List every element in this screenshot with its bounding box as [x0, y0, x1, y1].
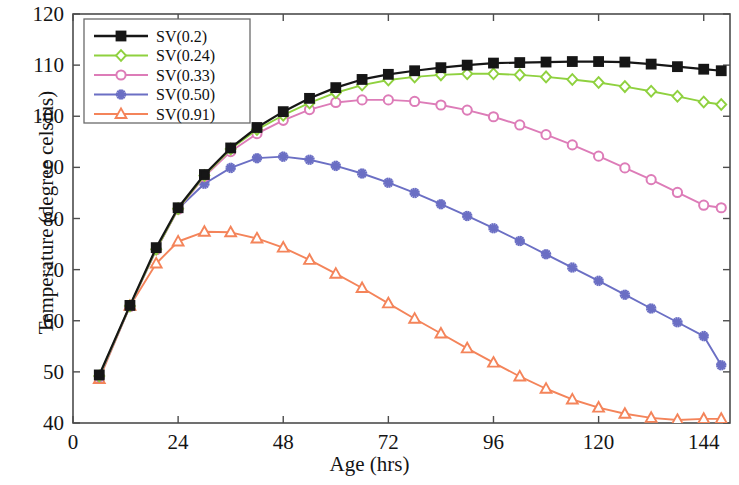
data-point-marker	[621, 58, 629, 66]
data-point-marker	[174, 204, 182, 212]
data-point-marker	[384, 95, 393, 104]
data-point-marker	[567, 263, 577, 273]
data-point-marker	[673, 188, 682, 197]
data-point-marker	[646, 303, 656, 313]
y-tick-label: 120	[0, 2, 64, 27]
data-point-marker	[716, 360, 726, 370]
data-point-marker	[226, 163, 236, 173]
data-point-marker	[357, 95, 366, 104]
data-point-marker	[410, 188, 420, 198]
data-point-marker	[253, 123, 261, 131]
data-point-marker	[116, 89, 126, 99]
data-point-marker	[462, 211, 472, 221]
legend-label: SV(0.33)	[156, 67, 215, 85]
chart-figure: SV(0.2)SV(0.24)SV(0.33)SV(0.50)SV(0.91) …	[0, 0, 739, 485]
data-point-marker	[489, 112, 498, 121]
legend-label: SV(0.24)	[156, 47, 215, 65]
data-point-marker	[620, 163, 629, 172]
data-point-marker	[647, 60, 655, 68]
line-chart-canvas: SV(0.2)SV(0.24)SV(0.33)SV(0.50)SV(0.91)	[0, 0, 739, 485]
data-point-marker	[542, 58, 550, 66]
data-point-marker	[410, 97, 419, 106]
data-point-marker	[516, 58, 524, 66]
data-point-marker	[717, 67, 725, 75]
data-point-marker	[594, 276, 604, 286]
data-point-marker	[699, 201, 708, 210]
data-point-marker	[541, 249, 551, 259]
data-point-marker	[358, 75, 366, 83]
data-point-marker	[384, 70, 392, 78]
data-point-marker	[647, 175, 656, 184]
data-point-marker	[383, 178, 393, 188]
data-point-marker	[463, 61, 471, 69]
data-point-marker	[304, 155, 314, 165]
legend-label: SV(0.50)	[156, 86, 215, 104]
data-point-marker	[594, 57, 602, 65]
data-point-marker	[152, 243, 160, 251]
data-point-marker	[279, 107, 287, 115]
y-axis-title-text: Temperature (degree celsius)	[34, 91, 58, 334]
data-point-marker	[357, 168, 367, 178]
y-axis-title: Temperature (degree celsius)	[34, 83, 59, 343]
data-point-marker	[568, 140, 577, 149]
y-tick-label: 50	[0, 359, 64, 384]
x-axis-title: Age (hrs)	[0, 452, 739, 477]
data-point-marker	[620, 290, 630, 300]
data-point-marker	[226, 144, 234, 152]
data-point-marker	[116, 70, 125, 79]
data-point-marker	[436, 100, 445, 109]
y-tick-label: 110	[0, 53, 64, 78]
data-point-marker	[568, 57, 576, 65]
data-point-marker	[541, 130, 550, 139]
data-point-marker	[463, 106, 472, 115]
data-point-marker	[488, 223, 498, 233]
data-point-marker	[252, 153, 262, 163]
legend-label: SV(0.91)	[156, 106, 215, 124]
data-point-marker	[331, 161, 341, 171]
data-point-marker	[672, 317, 682, 327]
data-point-marker	[515, 120, 524, 129]
data-point-marker	[489, 59, 497, 67]
legend-label: SV(0.2)	[156, 28, 207, 46]
data-point-marker	[278, 152, 288, 162]
data-point-marker	[717, 203, 726, 212]
data-point-marker	[437, 63, 445, 71]
data-point-marker	[515, 236, 525, 246]
data-point-marker	[699, 331, 709, 341]
data-point-marker	[305, 94, 313, 102]
data-point-marker	[700, 65, 708, 73]
data-point-marker	[117, 32, 125, 40]
data-point-marker	[332, 83, 340, 91]
data-point-marker	[126, 301, 134, 309]
data-point-marker	[594, 152, 603, 161]
y-tick-label: 40	[0, 411, 64, 436]
data-point-marker	[200, 170, 208, 178]
data-point-marker	[436, 199, 446, 209]
data-point-marker	[673, 62, 681, 70]
chart-legend: SV(0.2)SV(0.24)SV(0.33)SV(0.50)SV(0.91)	[84, 19, 250, 124]
data-point-marker	[410, 67, 418, 75]
data-point-marker	[95, 371, 103, 379]
